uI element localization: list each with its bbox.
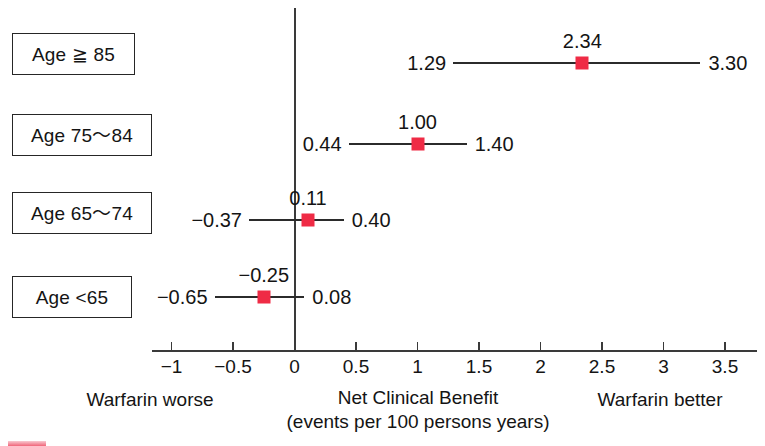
x-axis-tick: [601, 342, 602, 350]
forest-plot-figure: Age ≧ 85 Age 75～84 Age 65～74 Age <65 −1−…: [0, 0, 765, 446]
x-axis-label: Net Clinical Benefit (events per 100 per…: [287, 386, 550, 434]
x-axis-tick: [294, 342, 295, 350]
x-axis-tick-label: −1: [161, 357, 183, 376]
x-axis-tick: [724, 342, 725, 350]
point-estimate-label: 2.34: [563, 31, 602, 51]
x-axis-label-sub: (events per 100 persons years): [287, 410, 550, 434]
group-label-box-2: Age 65～74: [12, 192, 152, 234]
legend-swatch-cropped: [8, 441, 46, 446]
upper-bound-label: 0.40: [352, 210, 391, 230]
group-label-box-3: Age <65: [12, 276, 132, 318]
point-estimate-marker: [411, 138, 424, 151]
upper-bound-label: 1.40: [475, 134, 514, 154]
x-axis-tick: [540, 342, 541, 350]
x-axis-tick-label: 2: [535, 357, 546, 376]
x-axis-tick-label: 2.5: [589, 357, 615, 376]
x-axis-tick: [478, 342, 479, 350]
x-axis-tick-label: 1: [412, 357, 423, 376]
lower-bound-label: −0.37: [191, 210, 242, 230]
x-axis-line: [152, 350, 757, 352]
point-estimate-label: 1.00: [398, 112, 437, 132]
x-axis-tick: [355, 342, 356, 350]
lower-bound-label: 1.29: [407, 53, 446, 73]
group-label-box-1: Age 75～84: [12, 114, 152, 156]
point-estimate-marker: [257, 291, 270, 304]
x-axis-tick-label: 0.5: [343, 357, 369, 376]
point-estimate-label: 0.11: [289, 188, 326, 208]
point-estimate-label: −0.25: [238, 265, 289, 285]
upper-bound-label: 0.08: [312, 287, 351, 307]
right-annotation-text: Warfarin better: [598, 389, 723, 410]
x-axis-tick-label: 3.5: [712, 357, 738, 376]
x-axis-label-main: Net Clinical Benefit: [338, 387, 499, 408]
confidence-interval-line: [249, 219, 344, 221]
group-label-text: Age 75～84: [31, 126, 133, 145]
point-estimate-marker: [302, 214, 315, 227]
x-axis-tick-label: 3: [658, 357, 669, 376]
lower-bound-label: 0.44: [303, 134, 342, 154]
point-estimate-marker: [576, 57, 589, 70]
confidence-interval-line: [349, 143, 467, 145]
x-axis-tick-label: 0: [289, 357, 300, 376]
x-axis-tick: [663, 342, 664, 350]
right-annotation: Warfarin better: [598, 388, 723, 412]
x-axis-tick: [171, 342, 172, 350]
left-annotation: Warfarin worse: [86, 388, 213, 412]
group-label-box-0: Age ≧ 85: [12, 33, 135, 75]
x-axis-tick: [232, 342, 233, 350]
group-label-text: Age 65～74: [31, 204, 133, 223]
zero-reference-line: [294, 8, 296, 351]
left-annotation-text: Warfarin worse: [86, 389, 213, 410]
x-axis-tick-label: 1.5: [466, 357, 492, 376]
group-label-text: Age ≧ 85: [32, 45, 115, 64]
upper-bound-label: 3.30: [708, 53, 747, 73]
x-axis-tick-label: −0.5: [214, 357, 252, 376]
group-label-text: Age <65: [36, 288, 109, 307]
x-axis-tick: [417, 342, 418, 350]
lower-bound-label: −0.65: [157, 287, 208, 307]
